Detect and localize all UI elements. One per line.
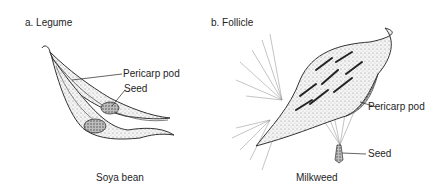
legume-caption: Soya bean — [96, 172, 144, 184]
follicle-caption: Milkweed — [296, 172, 338, 184]
follicle-seed-label: Seed — [368, 148, 391, 160]
follicle-heading: b. Follicle — [211, 17, 253, 29]
legume-pericarp-label: Pericarp pod — [123, 68, 180, 80]
legume-heading: a. Legume — [25, 17, 72, 29]
legume-seed-label: Seed — [124, 83, 147, 95]
follicle-pericarp-label: Pericarp pod — [368, 101, 425, 113]
legume-illustration — [42, 46, 174, 139]
